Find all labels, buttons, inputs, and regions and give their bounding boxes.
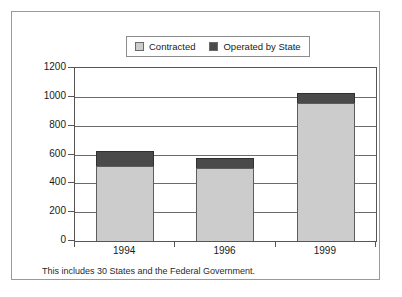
legend-swatch-contracted [135,42,144,51]
bar-1994[interactable] [96,151,154,241]
bar-segment-operated-by-state[interactable] [297,93,355,103]
bar-segment-contracted[interactable] [297,103,355,241]
bar-1999[interactable] [297,93,355,241]
x-axis-tick-label-1996: 1996 [213,246,235,256]
x-axis-tick-mark [275,241,276,247]
chart-footnote: This includes 30 States and the Federal … [42,266,255,276]
chart-page: Contracted Operated by State 02004006008… [0,0,402,297]
legend-swatch-operated-by-state [209,42,218,51]
y-axis-tick-label: 1000 [44,91,66,101]
x-axis-tick-label-1994: 1994 [113,246,135,256]
y-axis-tick-label: 200 [49,206,66,216]
bar-segment-contracted[interactable] [96,166,154,241]
legend-label-contracted: Contracted [149,42,195,52]
x-axis-tick-mark [375,241,376,247]
bar-slot [276,68,376,241]
y-axis-tick-label: 800 [49,120,66,130]
legend-entry-contracted: Contracted [135,42,195,52]
bar-1996[interactable] [196,158,254,241]
legend-entry-operated-by-state: Operated by State [209,42,300,52]
bar-segment-operated-by-state[interactable] [196,158,254,168]
bar-slot [75,68,175,241]
bar-segment-operated-by-state[interactable] [96,151,154,166]
x-axis-tick-mark [174,241,175,247]
legend-label-operated-by-state: Operated by State [223,42,300,52]
y-axis-tick-label: 0 [60,235,66,245]
y-axis-tick-label: 1200 [44,62,66,72]
y-axis-tick-mark [68,67,74,68]
y-axis-tick-mark [68,211,74,212]
y-axis-tick-mark [68,154,74,155]
y-axis: 020040060080010001200 [34,67,66,240]
bar-segment-contracted[interactable] [196,168,254,241]
y-axis-tick-mark [68,182,74,183]
plot-area [74,67,377,242]
chart-legend: Contracted Operated by State [126,36,310,57]
bar-slot [175,68,275,241]
y-axis-tick-mark [68,96,74,97]
x-axis-tick-label-1999: 1999 [314,246,336,256]
x-axis-tick-mark [74,241,75,247]
y-axis-tick-label: 400 [49,177,66,187]
y-axis-tick-mark [68,125,74,126]
y-axis-tick-label: 600 [49,149,66,159]
figure-frame: Contracted Operated by State 02004006008… [11,11,380,280]
